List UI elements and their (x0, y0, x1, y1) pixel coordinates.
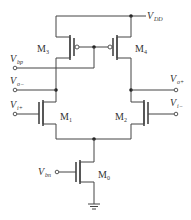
svg-text:3: 3 (46, 49, 49, 55)
svg-text:i+: i+ (17, 105, 23, 111)
vdd-rail: V DD (56, 10, 163, 22)
transistor-m1: V i+ M 1 (10, 92, 72, 139)
m0-label: M (98, 169, 107, 180)
svg-text:bn: bn (45, 172, 51, 178)
m1-label: M (60, 111, 69, 122)
transistor-m2: V i− M 2 (115, 92, 183, 139)
transistor-m3: M 3 (37, 16, 110, 92)
circuit-schematic: V DD M 3 M 4 V bp V o− (0, 0, 191, 220)
vbp-terminal: V bp (10, 45, 96, 70)
svg-text:0: 0 (107, 175, 110, 181)
svg-text:o−: o− (17, 81, 24, 87)
svg-text:1: 1 (69, 117, 72, 123)
transistor-m4: M 4 (108, 16, 147, 92)
svg-text:o+: o+ (177, 79, 184, 85)
svg-text:bp: bp (17, 59, 23, 65)
svg-text:DD: DD (153, 16, 163, 22)
svg-text:i−: i− (177, 103, 183, 109)
transistor-m0: V bn M 0 (38, 139, 110, 204)
vo-plus-terminal: V o+ (129, 73, 184, 92)
m2-label: M (115, 111, 124, 122)
svg-text:4: 4 (144, 49, 147, 55)
vo-minus-terminal: V o− (10, 75, 58, 92)
m4-label: M (135, 43, 144, 54)
m3-label: M (37, 43, 46, 54)
ground-icon (88, 204, 100, 209)
svg-text:2: 2 (124, 117, 127, 123)
